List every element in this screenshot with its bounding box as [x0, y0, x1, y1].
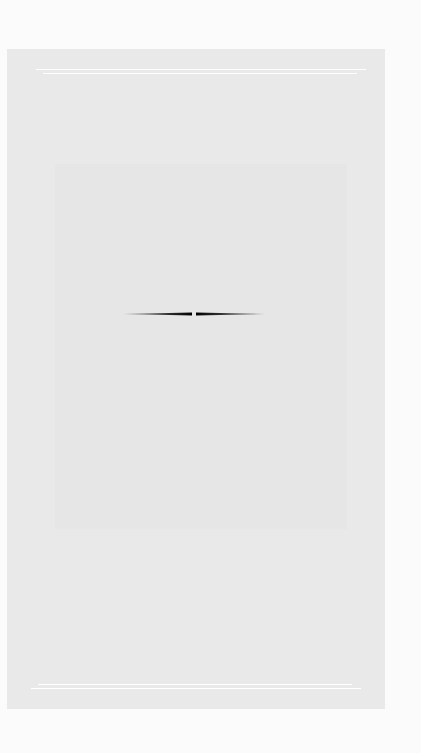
- ornamental-divider-icon: [123, 312, 265, 316]
- top-rule-outer: [36, 69, 366, 70]
- bottom-rule-outer: [31, 688, 361, 689]
- top-rule-inner: [43, 73, 357, 74]
- text-block-area: [55, 164, 347, 529]
- page-panel: [7, 49, 385, 709]
- bottom-rule-inner: [38, 684, 352, 685]
